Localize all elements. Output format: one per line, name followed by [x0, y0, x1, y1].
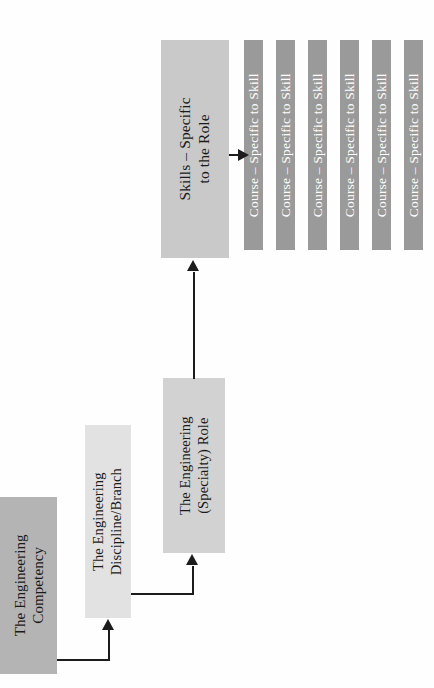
- node-course-6-label: Course – Specific to Skill: [405, 73, 421, 217]
- arrowhead-discipline-to-role: [186, 554, 198, 565]
- arrowhead-skills-to-course: [238, 149, 249, 161]
- node-skills-specific-to-role[interactable]: Skills – Specificto the Role: [161, 40, 229, 258]
- node-course-5[interactable]: Course – Specific to Skill: [372, 40, 391, 250]
- arrowhead-role-to-skills: [187, 260, 199, 271]
- node-engineering-discipline[interactable]: The EngineeringDiscipline/Branch: [85, 425, 131, 618]
- arrowhead-competency-to-discipline: [102, 619, 114, 630]
- node-discipline-label: The EngineeringDiscipline/Branch: [90, 468, 125, 575]
- node-course-4[interactable]: Course – Specific to Skill: [340, 40, 359, 250]
- node-course-1-label: Course – Specific to Skill: [245, 73, 261, 217]
- node-course-5-label: Course – Specific to Skill: [373, 73, 389, 217]
- node-course-2-label: Course – Specific to Skill: [277, 73, 293, 217]
- connector-competency-to-discipline-horizontal: [57, 659, 110, 661]
- node-course-3[interactable]: Course – Specific to Skill: [308, 40, 327, 250]
- node-course-6[interactable]: Course – Specific to Skill: [404, 40, 423, 250]
- connector-discipline-to-role-vertical: [192, 566, 194, 594]
- node-course-3-label: Course – Specific to Skill: [309, 73, 325, 217]
- connector-competency-to-discipline-vertical: [108, 630, 110, 660]
- node-course-4-label: Course – Specific to Skill: [341, 73, 357, 217]
- diagram-canvas: The EngineeringCompetency The Engineerin…: [0, 0, 434, 688]
- node-role-label: The Engineering(Specialty) Role: [176, 416, 211, 515]
- node-course-1[interactable]: Course – Specific to Skill: [244, 40, 263, 250]
- node-course-2[interactable]: Course – Specific to Skill: [276, 40, 295, 250]
- node-skills-label: Skills – Specificto the Role: [176, 97, 214, 200]
- connector-role-to-skills-vertical: [193, 272, 195, 379]
- node-competency-label: The EngineeringCompetency: [10, 535, 47, 637]
- node-engineering-competency[interactable]: The EngineeringCompetency: [0, 497, 57, 674]
- node-engineering-role[interactable]: The Engineering(Specialty) Role: [163, 378, 225, 553]
- connector-discipline-to-role-horizontal: [131, 593, 194, 595]
